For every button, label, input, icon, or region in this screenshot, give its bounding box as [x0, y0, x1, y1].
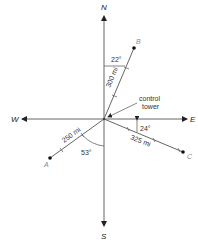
angle-c-label: 24°: [140, 125, 151, 132]
west-label: W: [11, 115, 20, 124]
distance-b-label: 300 mi: [104, 66, 119, 88]
point-a-dot: [48, 156, 52, 160]
east-label: E: [190, 115, 196, 124]
distance-c-label: 325 mi: [130, 133, 153, 148]
angle-arc-a: [82, 135, 104, 146]
point-b-dot: [132, 46, 136, 50]
south-label: S: [101, 232, 107, 241]
control-tower-label-line2: tower: [142, 103, 160, 110]
point-c-label: C: [187, 153, 193, 160]
distance-a-label: 250 mi: [60, 126, 81, 144]
control-tower-origin: [103, 118, 105, 120]
segment-a: [50, 119, 104, 158]
point-a-label: A: [43, 161, 49, 168]
control-tower-pointer: [108, 103, 137, 117]
point-b-label: B: [136, 38, 141, 45]
compass-diagram: N S W E B 300 mi 22° control tower A 250…: [0, 0, 198, 243]
segment-c: [104, 119, 183, 152]
angle-b-label: 22°: [111, 56, 122, 63]
north-label: N: [101, 3, 107, 12]
point-c-dot: [181, 150, 185, 154]
angle-a-label: 53°: [81, 149, 92, 156]
control-tower-label-line1: control: [139, 95, 160, 102]
